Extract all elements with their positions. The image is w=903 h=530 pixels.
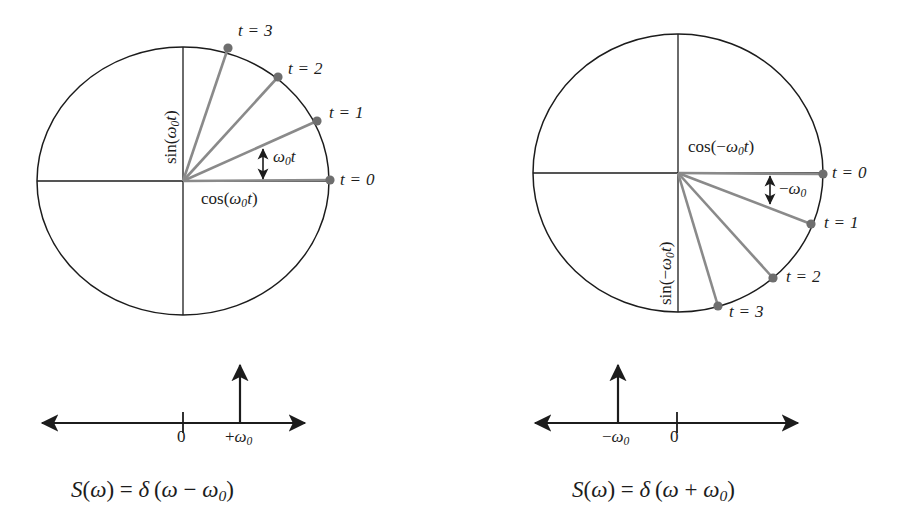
left-spectrum-equation: S(ω) = δ (ω − ω0) — [71, 478, 234, 504]
left-sample-label-t2: t = 2 — [288, 60, 323, 77]
right-sample-dot-t2 — [768, 273, 777, 282]
left-angle-label: ω0t — [273, 148, 296, 168]
left-sample-dot-t1 — [312, 116, 321, 125]
left-phasor-t3 — [183, 48, 228, 181]
right-sample-label-t0: t = 0 — [832, 164, 867, 181]
left-sample-dot-t3 — [223, 43, 232, 52]
left-sample-label-t3: t = 3 — [238, 22, 273, 39]
right-phasor-t0 — [678, 173, 823, 174]
left-cos-axis-label: cos(ω0t) — [201, 190, 258, 210]
left-impulse-label: +ω0 — [225, 428, 252, 448]
right-unit-circle-group — [533, 34, 828, 312]
left-zero-label: 0 — [177, 428, 186, 445]
left-sample-dot-t0 — [325, 175, 334, 184]
left-phasor-t0 — [183, 180, 330, 181]
right-sample-dot-t0 — [818, 169, 827, 178]
right-sample-dot-t1 — [806, 219, 815, 228]
left-sample-label-t0: t = 0 — [340, 171, 375, 188]
right-phasor-t2 — [678, 173, 773, 278]
left-unit-circle-group — [37, 43, 335, 315]
right-phasor-t3 — [678, 173, 718, 306]
right-sample-dot-t3 — [713, 301, 722, 310]
right-cos-axis-label: cos(−ω0t) — [688, 138, 754, 158]
right-zero-label: 0 — [670, 428, 679, 445]
left-sin-axis-label: sin(ω0t) — [162, 110, 182, 164]
right-sample-label-t3: t = 3 — [729, 303, 764, 320]
right-sample-label-t1: t = 1 — [824, 214, 859, 231]
right-sample-label-t2: t = 2 — [786, 268, 821, 285]
left-phasor-t1 — [183, 121, 317, 181]
right-impulse-label: −ω0 — [602, 428, 629, 448]
right-angle-label: −ω0 — [779, 180, 806, 200]
left-spectrum-group — [42, 365, 305, 433]
left-sample-dot-t2 — [273, 72, 282, 81]
figure-canvas — [0, 0, 903, 530]
right-sin-axis-label: sin(−ω0t) — [657, 242, 677, 305]
left-sample-label-t1: t = 1 — [329, 104, 364, 121]
signal-phasor-figure: t = 0 t = 1 t = 2 t = 3 cos(ω0t) sin(ω0t… — [0, 0, 903, 530]
right-spectrum-group — [535, 365, 798, 433]
right-spectrum-equation: S(ω) = δ (ω + ω0) — [572, 478, 735, 504]
